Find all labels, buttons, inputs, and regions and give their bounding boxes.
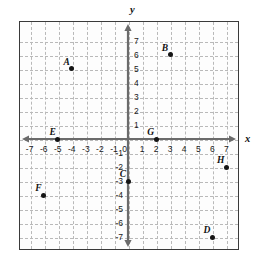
x-tick-label: -4 xyxy=(68,145,76,154)
data-point-d xyxy=(210,235,215,240)
x-tick-label: -3 xyxy=(82,145,90,154)
x-tick-label: -2 xyxy=(96,145,104,154)
x-tick-label: 6 xyxy=(210,145,215,154)
y-tick-label: -4 xyxy=(115,191,123,200)
y-tick-label: -1 xyxy=(115,149,123,158)
data-point-g xyxy=(154,137,159,142)
y-tick-label: 2 xyxy=(134,107,139,116)
data-point-e xyxy=(55,137,60,142)
point-label-h: H xyxy=(217,156,224,166)
y-tick-label: 7 xyxy=(134,36,139,45)
x-tick-label: -6 xyxy=(40,145,48,154)
y-axis-label: y xyxy=(130,5,135,16)
y-tick-label: 1 xyxy=(134,121,139,130)
x-tick-label: 1 xyxy=(140,145,145,154)
y-tick-label: 3 xyxy=(134,93,139,102)
x-tick-label: 7 xyxy=(224,145,229,154)
x-axis-label: x xyxy=(245,134,250,145)
y-tick-label: 4 xyxy=(134,79,139,88)
data-point-c xyxy=(126,179,131,184)
point-label-c: C xyxy=(120,170,126,180)
point-label-a: A xyxy=(63,57,69,67)
x-tick-label: 4 xyxy=(182,145,187,154)
x-tick-label: -5 xyxy=(54,145,62,154)
y-tick-label: 6 xyxy=(134,50,139,59)
point-label-e: E xyxy=(49,128,55,138)
data-point-f xyxy=(41,193,46,198)
data-point-h xyxy=(224,165,229,170)
point-label-g: G xyxy=(147,128,154,138)
x-tick-label: 3 xyxy=(168,145,173,154)
x-tick-label: 2 xyxy=(154,145,159,154)
y-tick-label: -7 xyxy=(115,233,123,242)
data-point-b xyxy=(168,52,173,57)
coordinate-plane-graph: -7-6-5-4-3-2-1012345677654321-1-2-3-4-5-… xyxy=(0,0,260,265)
point-label-b: B xyxy=(162,43,168,53)
x-tick-label: 5 xyxy=(196,145,201,154)
point-label-d: D xyxy=(203,226,210,236)
y-tick-label: -5 xyxy=(115,205,123,214)
x-tick-label: -7 xyxy=(26,145,34,154)
point-label-f: F xyxy=(35,184,41,194)
y-tick-label: 5 xyxy=(134,65,139,74)
y-tick-label: -6 xyxy=(115,219,123,228)
